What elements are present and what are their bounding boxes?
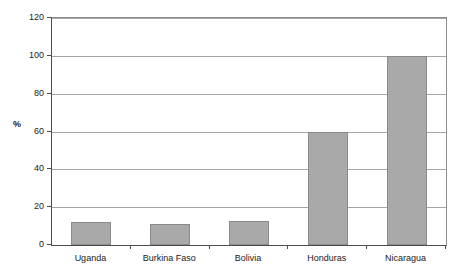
x-tick-mark bbox=[130, 245, 131, 249]
bar[interactable] bbox=[387, 56, 427, 245]
x-tick-label: Burkina Faso bbox=[130, 252, 209, 264]
bar-slot bbox=[288, 18, 367, 245]
y-tick-label: 60 bbox=[14, 126, 44, 136]
y-tick-label: 100 bbox=[14, 50, 44, 60]
y-tick-label: 40 bbox=[14, 163, 44, 173]
bar[interactable] bbox=[308, 132, 348, 246]
x-tick-mark bbox=[366, 245, 367, 249]
bars-layer bbox=[52, 18, 446, 245]
y-tick-label: 0 bbox=[14, 239, 44, 249]
x-tick-label: Bolivia bbox=[209, 252, 288, 264]
y-tick-label: 80 bbox=[14, 88, 44, 98]
bar[interactable] bbox=[71, 222, 111, 245]
y-tick-label: 20 bbox=[14, 201, 44, 211]
bar-slot bbox=[210, 18, 289, 245]
x-tick-label: Honduras bbox=[287, 252, 366, 264]
bar-slot bbox=[131, 18, 210, 245]
bar-slot bbox=[367, 18, 446, 245]
x-tick-label: Nicaragua bbox=[366, 252, 445, 264]
x-tick-mark bbox=[445, 245, 446, 249]
plot-area bbox=[51, 17, 447, 246]
bar[interactable] bbox=[229, 221, 269, 245]
x-tick-mark bbox=[209, 245, 210, 249]
y-tick-label: 120 bbox=[14, 12, 44, 22]
bar-chart: % 020406080100120 UgandaBurkina FasoBoli… bbox=[0, 0, 457, 279]
x-tick-label: Uganda bbox=[51, 252, 130, 264]
x-tick-mark bbox=[287, 245, 288, 249]
bar[interactable] bbox=[150, 224, 190, 245]
bar-slot bbox=[52, 18, 131, 245]
